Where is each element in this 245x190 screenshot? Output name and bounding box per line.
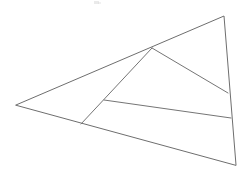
geometry-figure: [0, 0, 245, 190]
main-triangle-outline: [16, 16, 236, 165]
cevian-upper-junction-to-bottom-edge: [81, 48, 152, 124]
scan-artifact-speck: [98, 2, 101, 4]
cevian-interior-to-right-edge: [104, 100, 231, 118]
cevian-upper-junction-to-right-edge: [152, 48, 228, 93]
geometry-canvas: [0, 0, 245, 190]
